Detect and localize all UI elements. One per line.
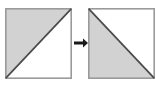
transform-arrow (74, 39, 88, 48)
transform-arrow-head-icon (83, 39, 88, 48)
right-square (89, 9, 154, 78)
left-square (6, 9, 71, 78)
diagram-svg (0, 0, 156, 88)
transform-arrow-shaft (74, 42, 83, 45)
figure-canvas (0, 0, 156, 88)
